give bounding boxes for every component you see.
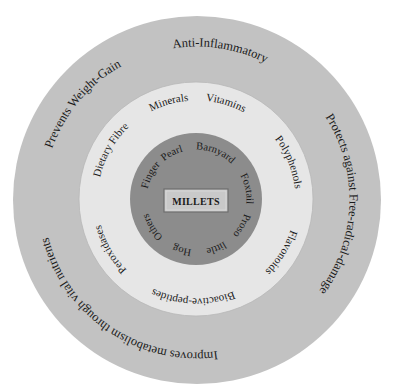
concentric-diagram: Anti-InflammatoryProtects against Free-r… [0, 0, 393, 391]
center-box: MILLETS [164, 189, 228, 212]
center-label: MILLETS [172, 196, 220, 207]
millets-diagram: Anti-InflammatoryProtects against Free-r… [0, 0, 393, 391]
